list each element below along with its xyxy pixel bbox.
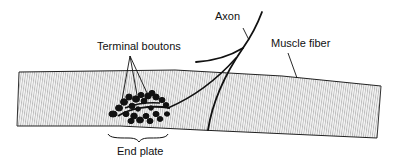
- muscle-fiber-leader-line: [288, 53, 297, 78]
- end-plate-label: End plate: [117, 146, 163, 157]
- diagram-canvas: [0, 0, 394, 167]
- muscle-fiber: [17, 70, 381, 138]
- end-plate-brace: [108, 134, 168, 142]
- muscle-fiber-label: Muscle fiber: [271, 38, 330, 49]
- axon-label: Axon: [215, 11, 240, 22]
- terminal-boutons-label: Terminal boutons: [97, 41, 181, 52]
- neuromuscular-junction-diagram: Terminal boutons Axon Muscle fiber End p…: [0, 0, 394, 167]
- axon-leader-line: [243, 28, 249, 40]
